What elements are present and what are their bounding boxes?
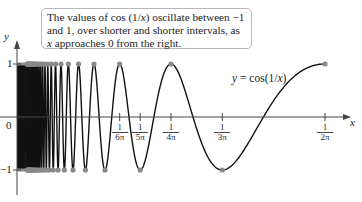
extremum-dot	[168, 61, 173, 66]
extremum-dot	[138, 167, 143, 172]
extremum-dot	[25, 167, 30, 172]
extremum-dot	[91, 61, 96, 66]
extremum-dot	[102, 167, 107, 172]
callout-text: The values of cos (1/x) oscillate betwee…	[47, 11, 244, 49]
extremum-dot	[58, 61, 63, 66]
extremum-dot	[25, 61, 30, 66]
x-tick-label: 16π	[112, 123, 128, 142]
y-axis-arrow-icon	[14, 40, 20, 49]
y-tick-1-label: 1	[7, 57, 13, 69]
tick-denominator: 6π	[112, 133, 128, 142]
x-axis-label: x	[350, 116, 355, 128]
curve-label-text: y = cos(1/x)	[232, 72, 286, 84]
x-tick-label: 12π	[317, 123, 333, 142]
tick-denominator: 3π	[214, 133, 230, 142]
annotation-callout: The values of cos (1/x) oscillate betwee…	[41, 8, 252, 49]
x-tick-label: 13π	[214, 123, 230, 142]
extremum-dot	[117, 61, 122, 66]
tick-denominator: 2π	[317, 133, 333, 142]
extremum-dot	[322, 61, 327, 66]
extremum-dot	[83, 167, 88, 172]
tick-denominator: 5π	[132, 133, 148, 142]
curve-label: y = cos(1/x)	[232, 72, 286, 84]
x-tick-label: 15π	[132, 123, 148, 142]
extremum-dot	[70, 167, 75, 172]
extremum-dot	[62, 167, 67, 172]
origin-label: 0	[6, 119, 12, 131]
extremum-dot	[220, 167, 225, 172]
extremum-dot	[55, 167, 60, 172]
extremum-dot	[66, 61, 71, 66]
extremum-dot	[76, 61, 81, 66]
x-tick-label: 14π	[163, 123, 179, 142]
y-tick-neg1-label: −1	[0, 163, 12, 175]
tick-denominator: 4π	[163, 133, 179, 142]
y-axis-label: y	[4, 30, 9, 42]
